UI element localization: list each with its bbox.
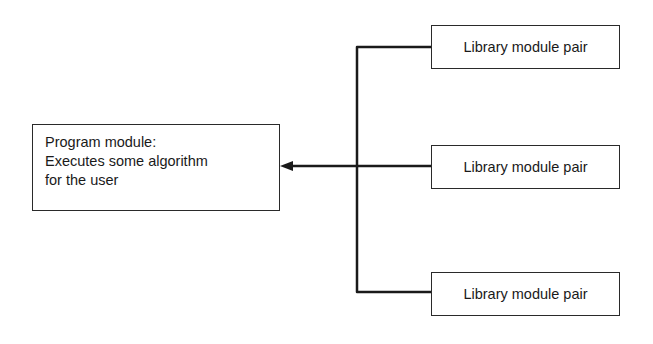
library-module-label: Library module pair bbox=[463, 286, 587, 302]
arrowhead-icon bbox=[280, 161, 293, 171]
program-module-box: Program module: Executes some algorithm … bbox=[32, 124, 280, 211]
library-module-label: Library module pair bbox=[463, 39, 587, 55]
bus-line bbox=[357, 47, 431, 292]
library-module-box-middle: Library module pair bbox=[431, 145, 620, 189]
library-module-box-top: Library module pair bbox=[431, 25, 620, 69]
program-module-desc-line2: for the user bbox=[45, 171, 279, 190]
library-module-label: Library module pair bbox=[463, 159, 587, 175]
library-module-box-bottom: Library module pair bbox=[431, 272, 620, 316]
program-module-desc-line1: Executes some algorithm bbox=[45, 152, 279, 171]
program-module-title: Program module: bbox=[45, 133, 279, 152]
